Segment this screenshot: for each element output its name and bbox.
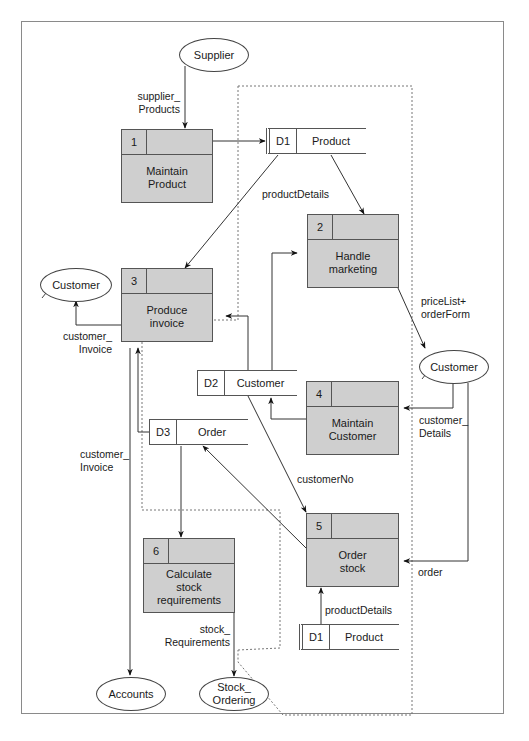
datastore-name: Customer: [224, 371, 297, 395]
entity-customer-right[interactable]: Customer: [419, 350, 489, 384]
entity-customer-left[interactable]: Customer: [40, 268, 112, 302]
flow-label-stock-requirements: stock_ Requirements: [150, 623, 230, 649]
flow-label-customer-invoice-left: customer_ Invoice: [30, 330, 112, 356]
process-2-handle-marketing[interactable]: 2 Handle marketing: [307, 214, 399, 288]
datastore-id: D2: [198, 371, 225, 395]
datastore-d1-product-duplicate[interactable]: D1 Product: [299, 624, 399, 650]
flow-label-product-details-bottom: productDetails: [325, 604, 392, 617]
datastore-id: D1: [270, 129, 297, 153]
process-3-produce-invoice[interactable]: 3 Produce invoice: [121, 268, 213, 342]
datastore-name: Product: [296, 129, 366, 153]
process-1-maintain-product[interactable]: 1 Maintain Product: [121, 129, 213, 203]
entity-accounts[interactable]: Accounts: [96, 677, 166, 711]
datastore-d3-order[interactable]: D3 Order: [149, 419, 248, 445]
process-number: 5: [307, 514, 332, 538]
datastore-id: D3: [150, 420, 177, 444]
process-name: Handle marketing: [308, 239, 398, 287]
datastore-name: Order: [176, 420, 248, 444]
flow-label-order: order: [418, 566, 443, 579]
flow-label-customer-details: customer_ Details: [419, 414, 468, 440]
entity-supplier[interactable]: Supplier: [179, 38, 249, 72]
process-name: Maintain Product: [122, 154, 212, 202]
flow-label-supplier-products: supplier_ Products: [126, 90, 180, 116]
datastore-d2-customer[interactable]: D2 Customer: [197, 370, 297, 396]
entity-stock-ordering[interactable]: Stock_ Ordering: [199, 677, 269, 711]
datastore-name: Product: [329, 625, 399, 649]
flow-label-customer-invoice-accounts: customer_ Invoice: [80, 448, 129, 474]
process-name: Maintain Customer: [307, 406, 398, 454]
process-name: Calculate stock requirements: [144, 563, 234, 612]
flow-label-customer-no: customerNo: [297, 473, 354, 486]
process-number: 1: [122, 130, 147, 154]
datastore-id: D1: [303, 625, 330, 649]
process-name: Order stock: [307, 538, 398, 586]
datastore-d1-product[interactable]: D1 Product: [266, 128, 366, 154]
flow-label-pricelist-orderform: priceList+ orderForm: [421, 295, 470, 321]
process-number: 6: [144, 539, 169, 563]
process-4-maintain-customer[interactable]: 4 Maintain Customer: [306, 381, 399, 455]
process-6-calculate-stock-requirements[interactable]: 6 Calculate stock requirements: [143, 538, 235, 613]
flow-label-product-details-top: productDetails: [262, 188, 329, 201]
process-name: Produce invoice: [122, 293, 212, 341]
process-number: 4: [307, 382, 332, 406]
process-number: 3: [122, 269, 147, 293]
process-number: 2: [308, 215, 333, 239]
process-5-order-stock[interactable]: 5 Order stock: [306, 513, 399, 587]
